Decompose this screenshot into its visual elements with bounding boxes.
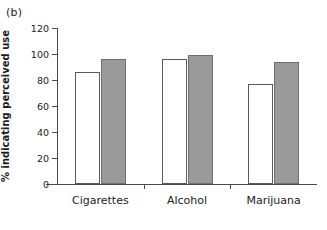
y-tick-0	[52, 184, 57, 185]
y-tick-label-60: 60	[37, 101, 49, 112]
y-tick-label-20: 20	[37, 153, 49, 164]
bar-marijuana-open	[248, 84, 273, 184]
x-tick-2	[230, 184, 231, 189]
y-tick-label-120: 120	[31, 23, 49, 34]
bar-cigarettes-open	[75, 72, 100, 184]
x-axis-line	[46, 184, 317, 185]
y-tick-80	[52, 80, 57, 81]
y-tick-label-0: 0	[43, 179, 49, 190]
y-tick-60	[52, 106, 57, 107]
group-label-alcohol: Alcohol	[167, 194, 207, 207]
bar-alcohol-filled	[188, 55, 213, 184]
panel-label: (b)	[6, 6, 22, 19]
bar-marijuana-filled	[274, 62, 299, 184]
y-tick-20	[52, 158, 57, 159]
y-axis-tick-labels: 020406080100120	[17, 28, 49, 184]
y-axis-line	[57, 28, 58, 184]
x-tick-1	[144, 184, 145, 189]
bar-alcohol-open	[162, 59, 187, 184]
figure-panel-b: (b) 020406080100120 % indicating perceiv…	[0, 0, 327, 230]
y-tick-40	[52, 132, 57, 133]
y-tick-100	[52, 54, 57, 55]
y-tick-120	[52, 28, 57, 29]
bar-cigarettes-filled	[101, 59, 126, 184]
group-label-marijuana: Marijuana	[247, 194, 301, 207]
group-label-cigarettes: Cigarettes	[72, 194, 129, 207]
y-tick-label-80: 80	[37, 75, 49, 86]
plot-area: 020406080100120 % indicating perceived u…	[57, 28, 317, 184]
y-tick-label-100: 100	[31, 49, 49, 60]
y-tick-label-40: 40	[37, 127, 49, 138]
y-axis-title: % indicating perceived use	[0, 30, 11, 182]
